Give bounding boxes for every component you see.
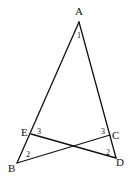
geometry-diagram: A E B C D 1 3 3 2 2: [0, 0, 130, 189]
segment-ab: [17, 22, 79, 163]
point-label-a: A: [75, 5, 83, 17]
angle-label-3-left: 3: [37, 127, 41, 136]
point-label-c: C: [112, 129, 119, 141]
point-label-b: B: [8, 162, 15, 174]
segment-ad: [79, 22, 116, 158]
angle-label-3-right: 3: [101, 127, 105, 136]
segment-bc: [17, 135, 110, 163]
point-label-d: D: [116, 156, 124, 168]
angle-label-2-left: 2: [26, 150, 30, 159]
angle-label-2-right: 2: [106, 148, 110, 157]
angle-label-1: 1: [77, 31, 81, 40]
point-label-e: E: [21, 126, 28, 138]
